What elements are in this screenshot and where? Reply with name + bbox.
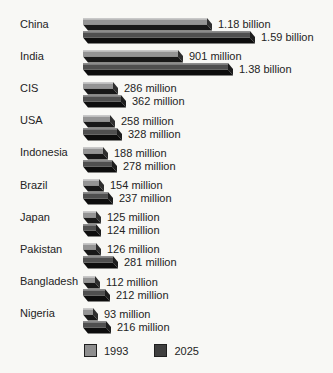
bar-1993-india [83, 50, 184, 63]
country-label-nigeria: Nigeria [20, 307, 55, 320]
bar-2025-usa [83, 128, 123, 141]
value-label-1993-pakistan: 126 million [107, 243, 160, 256]
value-label-1993-nigeria: 93 million [104, 308, 150, 321]
value-label-2025-nigeria: 216 million [117, 321, 170, 334]
value-label-2025-usa: 328 million [128, 128, 181, 141]
value-label-2025-brazil: 237 million [119, 192, 172, 205]
bar-2025-bangladesh [83, 289, 111, 302]
bar-1993-pakistan [83, 243, 102, 256]
bar-2025-nigeria [83, 321, 112, 334]
value-label-2025-indonesia: 278 million [123, 160, 176, 173]
country-label-china: China [20, 18, 49, 31]
bar-2025-japan [83, 224, 102, 237]
value-label-2025-india: 1.38 billion [239, 63, 292, 76]
value-label-2025-cis: 362 million [132, 95, 185, 108]
value-label-1993-usa: 258 million [121, 115, 174, 128]
value-label-2025-japan: 124 million [107, 224, 160, 237]
value-label-2025-china: 1.59 billion [261, 31, 314, 44]
value-label-1993-china: 1.18 billion [218, 18, 271, 31]
legend-swatch-1993 [84, 344, 97, 357]
bar-1993-china [83, 18, 213, 31]
bar-2025-india [83, 63, 234, 76]
country-label-brazil: Brazil [20, 179, 48, 192]
value-label-1993-bangladesh: 112 million [106, 276, 158, 289]
legend-label-1993: 1993 [104, 345, 128, 357]
bar-2025-brazil [83, 192, 114, 205]
value-label-2025-bangladesh: 212 million [116, 289, 169, 302]
bar-1993-japan [83, 211, 102, 224]
value-label-2025-pakistan: 281 million [124, 256, 177, 269]
country-label-indonesia: Indonesia [20, 146, 68, 159]
chart-area: China1.18 billion1.59 billionIndia901 mi… [0, 0, 333, 373]
country-label-japan: Japan [20, 211, 50, 224]
value-label-1993-indonesia: 188 million [114, 147, 167, 160]
bar-1993-cis [83, 82, 119, 95]
value-label-1993-india: 901 million [189, 50, 242, 63]
bar-1993-nigeria [83, 308, 99, 321]
population-projection-chart: China1.18 billion1.59 billionIndia901 mi… [0, 0, 333, 373]
value-label-1993-japan: 125 million [107, 211, 160, 224]
bar-2025-cis [83, 95, 127, 108]
value-label-1993-cis: 286 million [124, 82, 177, 95]
bar-2025-indonesia [83, 160, 118, 173]
country-label-bangladesh: Bangladesh [20, 275, 78, 288]
country-label-pakistan: Pakistan [20, 243, 62, 256]
bar-2025-china [83, 31, 256, 44]
bar-1993-bangladesh [83, 276, 101, 289]
bar-1993-usa [83, 115, 116, 128]
value-label-1993-brazil: 154 million [110, 179, 163, 192]
legend: 1993 2025 [84, 344, 199, 357]
country-label-india: India [20, 50, 44, 63]
bar-2025-pakistan [83, 256, 119, 269]
country-label-usa: USA [20, 114, 43, 127]
legend-swatch-2025 [154, 344, 167, 357]
bar-1993-indonesia [83, 147, 109, 160]
bar-1993-brazil [83, 179, 105, 192]
country-label-cis: CIS [20, 82, 38, 95]
legend-label-2025: 2025 [174, 345, 198, 357]
